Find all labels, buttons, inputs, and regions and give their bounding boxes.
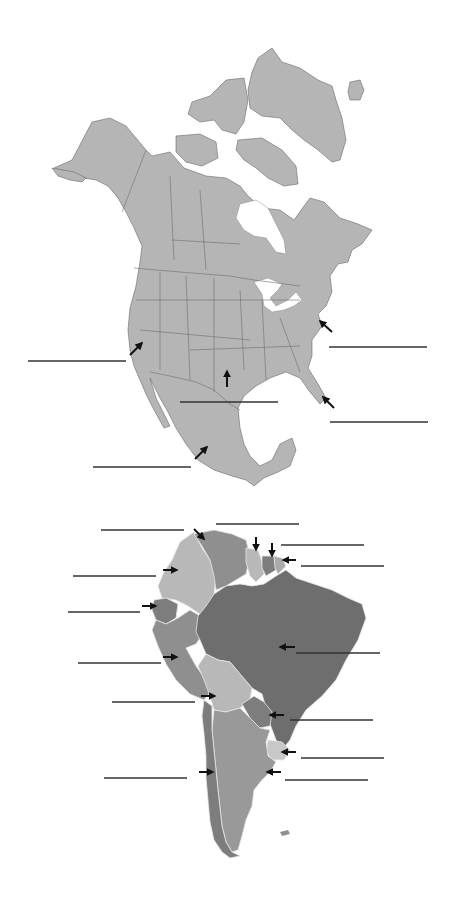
guyana-country	[246, 548, 264, 582]
maps-canvas	[0, 0, 450, 905]
north-america-mainland	[54, 118, 372, 486]
south-america-map	[152, 530, 366, 858]
map-worksheet	[0, 0, 450, 905]
arrow-icon	[323, 397, 334, 408]
baffin-island	[236, 138, 298, 186]
arctic-islands	[188, 78, 248, 134]
north-america-map	[52, 48, 372, 486]
falkland-islands	[280, 830, 290, 836]
victoria-island	[176, 134, 218, 166]
iceland-landmass	[348, 80, 364, 100]
